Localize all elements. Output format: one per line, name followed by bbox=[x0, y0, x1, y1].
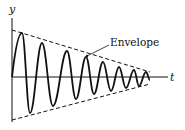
annotation-leader-line bbox=[87, 45, 109, 56]
envelope-label: Envelope bbox=[110, 37, 159, 48]
t-axis-label: t bbox=[170, 72, 174, 83]
damped-oscillation-diagram bbox=[0, 0, 185, 130]
y-axis-label: y bbox=[9, 4, 15, 15]
